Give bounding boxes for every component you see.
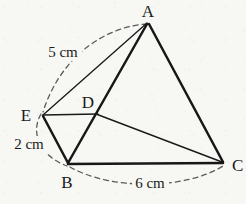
measurement-text-5cm: 5 cm <box>48 44 78 60</box>
measurement-text-6cm: 6 cm <box>135 175 165 191</box>
measurement-text-2cm: 2 cm <box>14 136 44 152</box>
measurement-text-layer: 5 cm 2 cm 6 cm <box>0 0 246 204</box>
geometry-figure: A B C D E 5 cm 2 cm 6 cm 5 cm 2 cm 6 cm <box>0 0 246 204</box>
